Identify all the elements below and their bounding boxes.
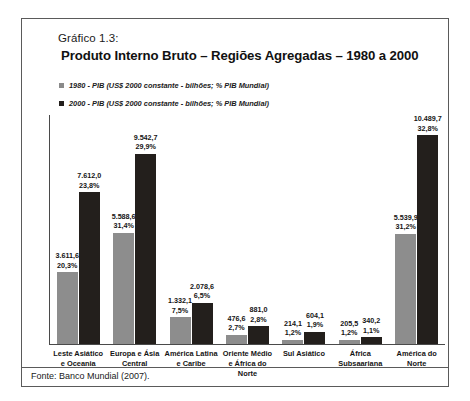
source-note: Fonte: Banco Mundial (2007). bbox=[31, 371, 150, 381]
bar-1980[interactable]: 205,51,2% bbox=[339, 340, 360, 344]
bar-group: 476,62,7%881,02,8% bbox=[219, 115, 275, 344]
category-label: América Latina e Caribe bbox=[163, 349, 219, 379]
bar-share: 1,2% bbox=[341, 328, 357, 337]
chart-caption-label: Gráfico 1.3: bbox=[58, 32, 119, 44]
bar-2000[interactable]: 340,21,1% bbox=[361, 337, 382, 344]
bar-value: 881,0 bbox=[249, 305, 267, 314]
chart-title: Produto Interno Bruto – Regiões Agregada… bbox=[61, 48, 419, 63]
category-label: Oriente Médio e África do Norte bbox=[219, 349, 275, 379]
bar-share: 7,5% bbox=[172, 306, 188, 315]
bar-1980[interactable]: 5.539,931,2% bbox=[395, 234, 416, 344]
bar-group: 1.332,17,5%2.078,66,5% bbox=[163, 115, 219, 344]
bar-2000[interactable]: 604,11,9% bbox=[304, 332, 325, 344]
plot-area: 3.611,620,3%7.612,023,8%5.588,631,4%9.54… bbox=[49, 115, 445, 345]
bar-value-label: 3.611,620,3% bbox=[55, 251, 79, 270]
bar-value: 10.489,7 bbox=[414, 114, 442, 123]
bar-share: 1,2% bbox=[285, 328, 301, 337]
bar-2000[interactable]: 7.612,023,8% bbox=[79, 192, 100, 344]
bar-share: 6,5% bbox=[194, 291, 210, 300]
category-label: África Subsaariana bbox=[332, 349, 388, 379]
bar-2000[interactable]: 10.489,732,8% bbox=[417, 135, 438, 344]
bar-value-label: 5.588,631,4% bbox=[112, 212, 136, 231]
category-label: América do Norte bbox=[389, 349, 445, 379]
bar-value: 2.078,6 bbox=[190, 282, 214, 291]
bar-value-label: 340,21,1% bbox=[362, 316, 380, 335]
bar-value: 214,1 bbox=[284, 319, 302, 328]
bar-value-label: 476,62,7% bbox=[227, 314, 245, 333]
bar-value: 5.539,9 bbox=[394, 213, 418, 222]
bar-share: 1,1% bbox=[363, 326, 379, 335]
bar-value: 3.611,6 bbox=[55, 251, 79, 260]
legend-label-2000: 2000 - PIB (US$ 2000 constante - bilhões… bbox=[69, 99, 269, 108]
bar-2000[interactable]: 881,02,8% bbox=[248, 326, 269, 344]
bar-share: 2,8% bbox=[250, 315, 266, 324]
category-label: Sul Asiático bbox=[276, 349, 332, 379]
legend-label-1980: 1980 - PIB (US$ 2000 constante - bilhões… bbox=[69, 81, 269, 90]
bar-group: 205,51,2%340,21,1% bbox=[332, 115, 388, 344]
bar-groups: 3.611,620,3%7.612,023,8%5.588,631,4%9.54… bbox=[50, 115, 445, 344]
bar-value: 9.542,7 bbox=[134, 133, 158, 142]
bar-1980[interactable]: 3.611,620,3% bbox=[57, 272, 78, 344]
bar-share: 29,9% bbox=[135, 142, 155, 151]
bar-1980[interactable]: 1.332,17,5% bbox=[170, 317, 191, 344]
bar-value: 1.332,1 bbox=[168, 296, 192, 305]
legend-item-1980: 1980 - PIB (US$ 2000 constante - bilhões… bbox=[59, 77, 269, 93]
bar-1980[interactable]: 214,11,2% bbox=[282, 340, 303, 344]
bar-share: 2,7% bbox=[228, 323, 244, 332]
bar-group: 3.611,620,3%7.612,023,8% bbox=[50, 115, 106, 344]
bar-group: 5.539,931,2%10.489,732,8% bbox=[389, 115, 445, 344]
bar-share: 32,8% bbox=[418, 124, 438, 133]
chart-legend: 1980 - PIB (US$ 2000 constante - bilhões… bbox=[59, 77, 269, 113]
bar-share: 20,3% bbox=[57, 261, 77, 270]
chart-card: Gráfico 1.3: Produto Interno Bruto – Reg… bbox=[21, 18, 449, 387]
legend-swatch-icon-1980 bbox=[59, 83, 64, 88]
legend-swatch-icon-2000 bbox=[59, 101, 64, 106]
bar-value: 205,5 bbox=[340, 319, 358, 328]
bar-share: 1,9% bbox=[307, 320, 323, 329]
bar-value: 604,1 bbox=[306, 311, 324, 320]
bar-value: 5.588,6 bbox=[112, 212, 136, 221]
footer-divider bbox=[22, 367, 448, 368]
bar-share: 31,4% bbox=[113, 221, 133, 230]
bar-value-label: 604,11,9% bbox=[306, 311, 324, 330]
bar-value: 340,2 bbox=[362, 316, 380, 325]
bar-value-label: 7.612,023,8% bbox=[77, 171, 101, 190]
bar-1980[interactable]: 5.588,631,4% bbox=[113, 233, 134, 344]
x-axis-line bbox=[49, 344, 445, 345]
bar-share: 31,2% bbox=[396, 222, 416, 231]
bar-value-label: 5.539,931,2% bbox=[394, 213, 418, 232]
bar-2000[interactable]: 2.078,66,5% bbox=[192, 303, 213, 344]
chart-caption: Gráfico 1.3: bbox=[52, 30, 125, 46]
bar-value: 476,6 bbox=[227, 314, 245, 323]
bar-1980[interactable]: 476,62,7% bbox=[226, 335, 247, 344]
bar-group: 5.588,631,4%9.542,729,9% bbox=[106, 115, 162, 344]
bar-2000[interactable]: 9.542,729,9% bbox=[135, 154, 156, 344]
bar-value-label: 881,02,8% bbox=[249, 305, 267, 324]
bar-value-label: 1.332,17,5% bbox=[168, 296, 192, 315]
bar-value: 7.612,0 bbox=[77, 171, 101, 180]
bar-value-label: 2.078,66,5% bbox=[190, 282, 214, 301]
bar-group: 214,11,2%604,11,9% bbox=[276, 115, 332, 344]
bar-value-label: 214,11,2% bbox=[284, 319, 302, 338]
bar-share: 23,8% bbox=[79, 181, 99, 190]
bar-value-label: 9.542,729,9% bbox=[134, 133, 158, 152]
bar-value-label: 10.489,732,8% bbox=[414, 114, 442, 133]
legend-item-2000: 2000 - PIB (US$ 2000 constante - bilhões… bbox=[59, 95, 269, 111]
bar-value-label: 205,51,2% bbox=[340, 319, 358, 338]
